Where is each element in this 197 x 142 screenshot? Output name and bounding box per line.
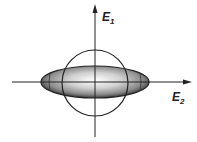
axis-label-e2: E2: [172, 90, 185, 106]
axis-label-e1: E1: [102, 10, 115, 26]
diagram-canvas: E1 E2: [0, 0, 197, 142]
